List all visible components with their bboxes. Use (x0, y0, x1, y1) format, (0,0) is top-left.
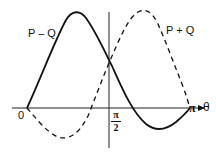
label-p-minus-q: P – Q (28, 28, 56, 39)
x-axis-label-theta: θ (203, 101, 210, 113)
trig-diagram (0, 0, 216, 152)
tick-numerator: π (113, 109, 118, 120)
tick-denominator: 2 (114, 122, 119, 133)
origin-label: 0 (18, 110, 24, 121)
tick-label-pi-over-2: π 2 (111, 110, 121, 133)
tick-label-pi: π (189, 102, 196, 114)
label-p-plus-q: P + Q (166, 25, 194, 36)
